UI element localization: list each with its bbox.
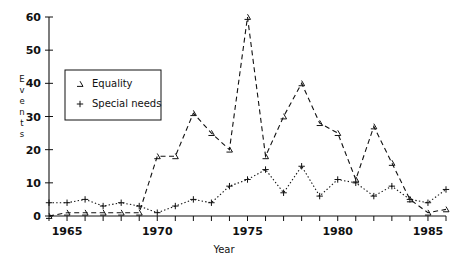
chart-canvas: 0102030405060 19651970197519801985 Event… bbox=[0, 0, 457, 264]
series-line bbox=[49, 166, 446, 212]
y-tick-labels: 0102030405060 bbox=[26, 11, 42, 223]
y-axis-title-letter: t bbox=[20, 118, 24, 128]
y-tick-label: 60 bbox=[26, 11, 42, 24]
legend-label: Special needs bbox=[92, 98, 161, 109]
x-tick-label: 1965 bbox=[52, 225, 83, 238]
x-tick-labels: 19651970197519801985 bbox=[52, 225, 444, 238]
x-tick-label: 1975 bbox=[232, 225, 263, 238]
legend-label: Equality bbox=[92, 78, 133, 89]
y-axis-group: 0102030405060 bbox=[26, 11, 53, 223]
series-markers bbox=[46, 163, 449, 216]
y-tick-label: 40 bbox=[26, 77, 42, 90]
x-tick-label: 1970 bbox=[142, 225, 173, 238]
x-tick-label: 1985 bbox=[413, 225, 444, 238]
y-axis-title: Events bbox=[19, 74, 24, 139]
line-chart: 0102030405060 19651970197519801985 Event… bbox=[0, 0, 457, 264]
y-tick-label: 20 bbox=[26, 144, 42, 157]
data-point-marker bbox=[389, 160, 395, 165]
y-axis-title-letter: s bbox=[20, 129, 25, 139]
data-point-marker bbox=[281, 114, 287, 119]
y-axis-title-letter: E bbox=[19, 74, 24, 84]
x-tick-marks bbox=[49, 216, 446, 221]
y-tick-label: 50 bbox=[26, 44, 42, 57]
data-point-marker bbox=[443, 207, 449, 212]
y-tick-label: 0 bbox=[33, 210, 41, 223]
y-tick-label: 30 bbox=[26, 111, 42, 124]
y-axis-title-letter: v bbox=[19, 85, 24, 95]
x-tick-label: 1980 bbox=[322, 225, 353, 238]
x-axis-title: Year bbox=[212, 244, 235, 255]
series-special-needs bbox=[46, 163, 449, 216]
legend: EqualitySpecial needs bbox=[65, 70, 161, 120]
y-axis-title-letter: e bbox=[19, 96, 24, 106]
data-point-marker bbox=[335, 130, 341, 135]
y-tick-label: 10 bbox=[26, 177, 42, 190]
y-axis-title-letter: n bbox=[19, 107, 24, 117]
x-axis-group: 19651970197519801985 bbox=[49, 216, 446, 238]
